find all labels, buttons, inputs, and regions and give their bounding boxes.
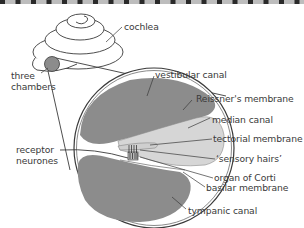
label-cochlea: cochlea <box>124 21 159 32</box>
label-tectorial-membrane: tectorial membrane <box>213 133 302 144</box>
label-three-chambers-1: three <box>11 70 35 81</box>
label-basilar-membrane: basilar membrane <box>206 182 288 193</box>
label-three-chambers-2: chambers <box>11 81 56 92</box>
label-median-canal: median canal <box>212 114 273 125</box>
label-receptor-neurones-2: neurones <box>16 155 58 166</box>
cochlea-cross-section <box>60 68 234 228</box>
label-vestibular-canal: vestibular canal <box>155 69 227 80</box>
top-dashed-border <box>0 0 304 4</box>
label-sensory-hairs: ‘sensory hairs’ <box>216 153 282 164</box>
label-tympanic-canal: tympanic canal <box>188 205 257 216</box>
label-reissners-membrane: Reissner's membrane <box>196 93 294 104</box>
label-receptor-neurones-1: receptor <box>16 144 54 155</box>
